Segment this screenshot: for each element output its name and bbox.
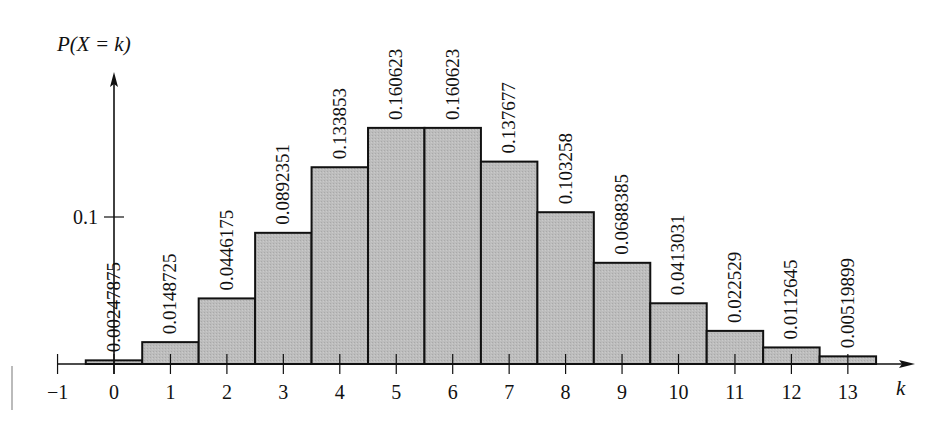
x-tick-label-3: 3 [278, 381, 288, 403]
bar-k-3 [255, 233, 311, 364]
bar-k-7 [481, 162, 537, 364]
value-label-k-12: 0.0112645 [780, 259, 801, 339]
bar-k-9 [594, 263, 650, 364]
x-tick-label-1: 1 [165, 381, 175, 403]
bar-k-4 [312, 167, 368, 364]
bar-k-8 [537, 212, 593, 364]
value-label-k-13: 0.00519899 [837, 258, 858, 348]
value-label-k-9: 0.0688385 [611, 174, 632, 255]
value-label-k-11: 0.022529 [724, 252, 745, 323]
x-tick-label-2: 2 [222, 381, 232, 403]
x-tick-labels-group: −1012345678910111213 [47, 381, 858, 403]
x-axis-title: k [896, 376, 906, 400]
x-tick-label-0: 0 [109, 381, 119, 403]
x-tick-label-7: 7 [504, 381, 514, 403]
bars-group [86, 128, 876, 364]
x-tick-label-13: 13 [838, 381, 858, 403]
value-label-k-8: 0.103258 [555, 133, 576, 204]
x-tick-label-8: 8 [561, 381, 571, 403]
bar-k-6 [424, 128, 480, 364]
y-tick-label: 0.1 [73, 206, 98, 228]
value-label-k-3: 0.0892351 [272, 144, 293, 225]
x-tick-label-6: 6 [448, 381, 458, 403]
x-tick-label-12: 12 [781, 381, 801, 403]
value-label-k-7: 0.137677 [498, 82, 519, 153]
bar-k-5 [368, 128, 424, 364]
x-tick-label-4: 4 [335, 381, 345, 403]
value-label-k-2: 0.0446175 [216, 210, 237, 291]
value-label-k-10: 0.0413031 [668, 215, 689, 296]
value-label-k-5: 0.160623 [385, 49, 406, 120]
histogram-chart: 0.002478750.01487250.04461750.08923510.1… [0, 0, 950, 433]
x-tick-label-9: 9 [617, 381, 627, 403]
value-label-k-1: 0.0148725 [159, 253, 180, 334]
x-tick-label-5: 5 [391, 381, 401, 403]
value-label-k-6: 0.160623 [442, 49, 463, 120]
x-tick-label--1: −1 [47, 381, 68, 403]
x-tick-label-10: 10 [669, 381, 689, 403]
x-tick-label-11: 11 [725, 381, 744, 403]
value-label-k-4: 0.133853 [329, 88, 350, 159]
y-axis-title: P(X = k) [56, 32, 131, 56]
